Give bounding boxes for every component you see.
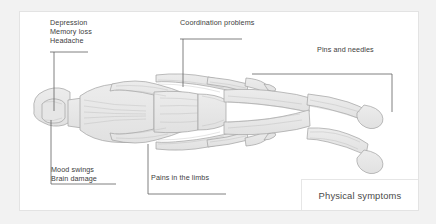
callout-coordination-problems: Coordination problems [180, 18, 254, 27]
callout-line: Depression [50, 18, 92, 27]
legend-label: Physical symptoms [319, 190, 402, 201]
callout-line: Coordination problems [180, 18, 254, 27]
callout-mood-swings-brain-damage: Mood swings Brain damage [51, 165, 97, 183]
callout-depression-memory-headache: Depression Memory loss Headache [50, 18, 92, 46]
callout-line: Brain damage [51, 174, 97, 183]
callout-pains-in-the-limbs: Pains in the limbs [151, 173, 209, 182]
screenshot-root: Depression Memory loss Headache Coordina… [0, 0, 436, 224]
diagram-panel: Depression Memory loss Headache Coordina… [19, 11, 419, 211]
callout-line: Headache [50, 36, 92, 45]
callout-line: Pins and needles [317, 45, 374, 54]
legend-box: Physical symptoms [301, 179, 419, 211]
callout-line: Memory loss [50, 27, 92, 36]
callout-pins-and-needles: Pins and needles [317, 45, 374, 54]
callout-line: Mood swings [51, 165, 97, 174]
callout-line: Pains in the limbs [151, 173, 209, 182]
